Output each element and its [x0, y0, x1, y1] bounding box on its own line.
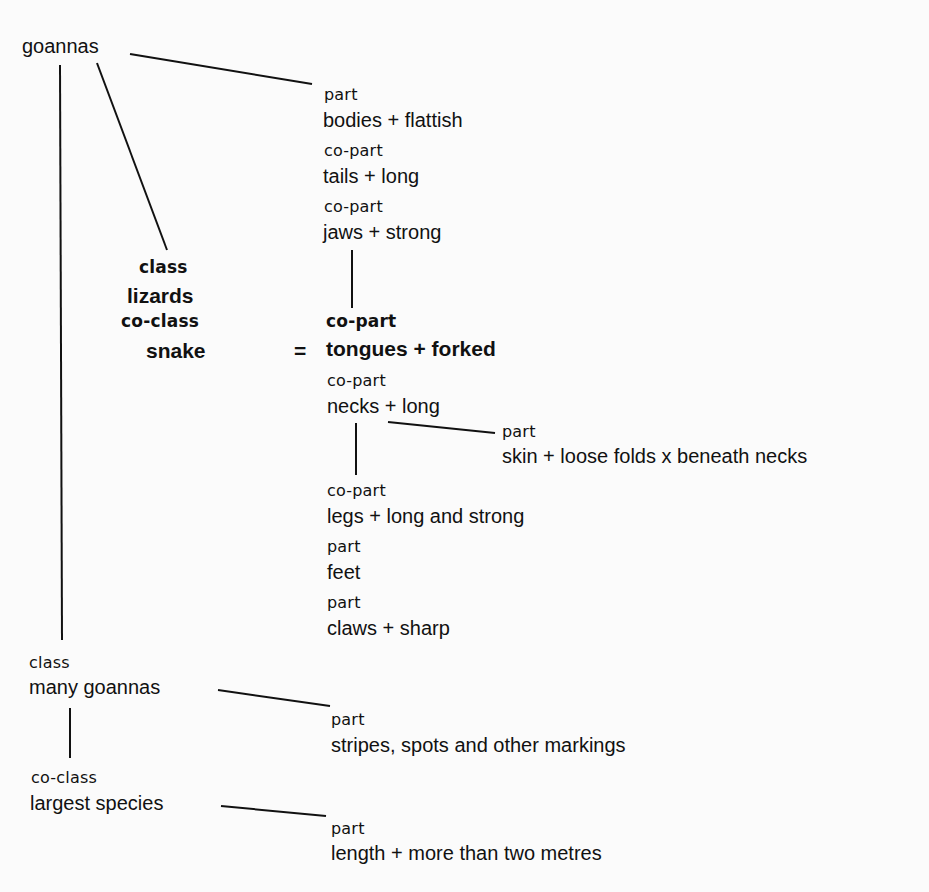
- connector-root-to-class: [97, 63, 167, 250]
- relation-label: part: [327, 595, 361, 611]
- relation-label: part: [327, 539, 361, 555]
- coclass-label: co-class: [121, 313, 199, 330]
- subclass-node: largest species: [30, 793, 163, 813]
- relation-label: co-part: [324, 199, 383, 215]
- goanna-taxonomy-diagram: goannas part bodies + flattish co-part t…: [0, 0, 929, 892]
- connector-many-to-stripes: [218, 690, 330, 706]
- relation-label: co-part: [327, 373, 386, 389]
- part-node: skin + loose folds x beneath necks: [502, 446, 807, 466]
- equals-sign: =: [294, 340, 306, 361]
- class-node: lizards: [127, 285, 194, 306]
- relation-label: co-part: [327, 483, 386, 499]
- part-node: bodies + flattish: [323, 110, 463, 130]
- relation-label: co-part: [326, 313, 396, 330]
- coclass-node: snake: [146, 340, 206, 361]
- connector-root-to-subclass: [60, 65, 62, 640]
- part-node: feet: [327, 562, 360, 582]
- relation-label: part: [331, 712, 365, 728]
- part-node: claws + sharp: [327, 618, 450, 638]
- subclass-node: many goannas: [29, 677, 160, 697]
- part-node: jaws + strong: [323, 222, 441, 242]
- part-node: necks + long: [327, 396, 440, 416]
- part-node: stripes, spots and other markings: [331, 735, 626, 755]
- part-node: tails + long: [323, 166, 419, 186]
- relation-label: part: [324, 87, 358, 103]
- connector-largest-to-length: [221, 806, 326, 816]
- root-node: goannas: [22, 36, 99, 56]
- relation-label: co-part: [324, 143, 383, 159]
- part-node: length + more than two metres: [331, 843, 602, 863]
- relation-label: class: [29, 655, 70, 671]
- connector-necks-to-skin: [388, 422, 495, 433]
- class-label: class: [139, 259, 188, 276]
- relation-label: part: [502, 424, 536, 440]
- relation-label: co-class: [31, 770, 97, 786]
- connector-root-to-parts: [130, 54, 312, 84]
- part-node: legs + long and strong: [327, 506, 524, 526]
- relation-label: part: [331, 821, 365, 837]
- part-node: tongues + forked: [326, 338, 496, 359]
